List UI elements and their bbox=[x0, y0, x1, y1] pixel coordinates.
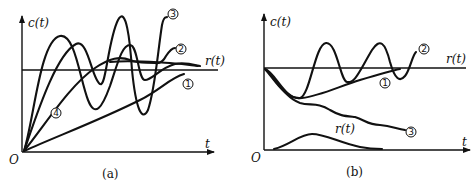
curve-4-a bbox=[24, 36, 200, 151]
svg-text:4: 4 bbox=[53, 108, 59, 118]
curve-3-a bbox=[24, 16, 167, 151]
marker-2-b: 2 bbox=[419, 44, 429, 54]
reference-label-b: r(t) bbox=[446, 52, 466, 66]
marker-3-a: 3 bbox=[168, 9, 178, 19]
disturbance-label-b: r(t) bbox=[335, 122, 355, 136]
curve-2-a bbox=[24, 48, 175, 151]
panel-a: 3 2 1 4 c(t) r(t) t O (a) bbox=[9, 9, 225, 181]
y-axis-label-b: c(t) bbox=[270, 15, 291, 29]
reference-label-a: r(t) bbox=[205, 54, 225, 68]
origin-label-b: O bbox=[251, 151, 261, 165]
svg-text:1: 1 bbox=[185, 79, 191, 89]
x-axis-label-b: t bbox=[462, 135, 467, 149]
svg-text:3: 3 bbox=[408, 127, 414, 137]
disturbance-curve-b bbox=[274, 134, 382, 149]
response-curves-figure: 3 2 1 4 c(t) r(t) t O (a) bbox=[0, 0, 475, 191]
svg-text:2: 2 bbox=[178, 44, 184, 54]
svg-text:2: 2 bbox=[421, 44, 427, 54]
svg-text:1: 1 bbox=[382, 78, 388, 88]
caption-a: (a) bbox=[102, 167, 119, 181]
marker-2-a: 2 bbox=[176, 44, 186, 54]
caption-b: (b) bbox=[346, 165, 363, 179]
svg-text:3: 3 bbox=[170, 9, 176, 19]
marker-4-a: 4 bbox=[51, 108, 61, 118]
marker-3-b: 3 bbox=[406, 127, 416, 137]
x-axis-label-a: t bbox=[205, 137, 210, 151]
origin-label-a: O bbox=[9, 153, 19, 167]
y-axis-label-a: c(t) bbox=[28, 16, 49, 30]
marker-1-b: 1 bbox=[380, 78, 390, 88]
marker-1-a: 1 bbox=[183, 79, 193, 89]
panel-b: 2 1 3 c(t) r(t) r(t) t O (b) bbox=[251, 14, 470, 179]
